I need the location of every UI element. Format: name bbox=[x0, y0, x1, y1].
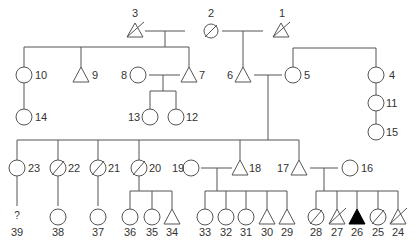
individual-9: 9 bbox=[73, 67, 98, 82]
label-9: 9 bbox=[92, 69, 98, 81]
label-30: 30 bbox=[261, 226, 273, 238]
individual-15: 15 bbox=[368, 124, 398, 140]
individual-10: 10 bbox=[16, 67, 47, 83]
label-16: 16 bbox=[361, 162, 373, 174]
male-triangle-icon bbox=[73, 67, 89, 82]
label-39: 39 bbox=[11, 226, 23, 238]
female-circle-icon bbox=[197, 209, 213, 225]
individual-26: 26 bbox=[349, 209, 365, 238]
female-circle-icon bbox=[368, 67, 384, 83]
individual-3: 3 bbox=[127, 7, 144, 37]
female-circle-icon bbox=[144, 209, 160, 225]
label-13: 13 bbox=[128, 111, 140, 123]
label-34: 34 bbox=[166, 226, 178, 238]
female-circle-icon bbox=[368, 124, 384, 140]
individual-22: 22 bbox=[50, 160, 80, 176]
label-29: 29 bbox=[281, 226, 293, 238]
female-circle-icon bbox=[122, 209, 138, 225]
individual-17: 17 bbox=[277, 160, 307, 175]
individual-4: 4 bbox=[368, 67, 395, 83]
female-circle-icon bbox=[285, 67, 301, 83]
female-circle-icon bbox=[130, 67, 146, 83]
unknown-sex-mark: ? bbox=[14, 210, 20, 221]
individual-38: 38 bbox=[50, 209, 66, 238]
label-19: 19 bbox=[172, 162, 184, 174]
female-circle-icon bbox=[218, 209, 234, 225]
female-circle-icon bbox=[168, 109, 184, 125]
individual-12: 12 bbox=[168, 109, 198, 125]
label-1: 1 bbox=[279, 7, 285, 19]
individual-33: 33 bbox=[197, 209, 213, 238]
label-20: 20 bbox=[149, 162, 161, 174]
individual-8: 8 bbox=[121, 67, 146, 83]
label-32: 32 bbox=[220, 226, 232, 238]
label-23: 23 bbox=[28, 162, 40, 174]
individual-18: 18 bbox=[232, 160, 261, 175]
individual-14: 14 bbox=[16, 109, 47, 125]
label-11: 11 bbox=[386, 97, 397, 109]
female-circle-icon bbox=[16, 109, 32, 125]
female-circle-icon bbox=[90, 209, 106, 225]
label-33: 33 bbox=[199, 226, 211, 238]
individual-28: 28 bbox=[308, 209, 324, 238]
individual-19: 19 bbox=[172, 160, 199, 176]
label-4: 4 bbox=[389, 69, 395, 81]
female-circle-icon bbox=[238, 209, 254, 225]
label-37: 37 bbox=[92, 226, 104, 238]
label-3: 3 bbox=[132, 7, 138, 19]
individual-13: 13 bbox=[128, 109, 158, 125]
female-circle-icon bbox=[142, 109, 158, 125]
label-28: 28 bbox=[310, 226, 322, 238]
individual-32: 32 bbox=[218, 209, 234, 238]
male-triangle-icon bbox=[164, 209, 180, 224]
individual-20: 20 bbox=[131, 160, 161, 176]
individual-5: 5 bbox=[285, 67, 310, 83]
individual-30: 30 bbox=[259, 209, 275, 238]
individual-35: 35 bbox=[144, 209, 160, 238]
label-17: 17 bbox=[277, 162, 289, 174]
individual-2: 2 bbox=[204, 7, 218, 38]
label-26: 26 bbox=[351, 226, 363, 238]
individual-34: 34 bbox=[164, 209, 180, 238]
individual-27: 27 bbox=[329, 208, 346, 238]
label-35: 35 bbox=[146, 226, 158, 238]
individual-25: 25 bbox=[370, 209, 386, 238]
female-circle-icon bbox=[9, 160, 25, 176]
male-triangle-icon bbox=[259, 209, 275, 224]
male-triangle-icon bbox=[232, 160, 248, 175]
individual-21: 21 bbox=[90, 160, 120, 176]
affected-male-triangle-icon bbox=[349, 209, 365, 224]
label-2: 2 bbox=[208, 7, 214, 19]
individual-11: 11 bbox=[368, 95, 397, 111]
label-10: 10 bbox=[35, 69, 47, 81]
label-21: 21 bbox=[108, 162, 120, 174]
individual-16: 16 bbox=[342, 160, 373, 176]
female-circle-icon bbox=[183, 160, 199, 176]
label-27: 27 bbox=[331, 226, 343, 238]
label-38: 38 bbox=[52, 226, 64, 238]
label-36: 36 bbox=[124, 226, 136, 238]
individual-6: 6 bbox=[227, 67, 251, 82]
female-circle-icon bbox=[16, 67, 32, 83]
individual-23: 23 bbox=[9, 160, 40, 176]
individual-36: 36 bbox=[122, 209, 138, 238]
label-22: 22 bbox=[68, 162, 80, 174]
male-triangle-icon bbox=[291, 160, 307, 175]
label-24: 24 bbox=[392, 226, 404, 238]
label-8: 8 bbox=[121, 69, 127, 81]
individual-7: 7 bbox=[181, 67, 205, 82]
female-circle-icon bbox=[342, 160, 358, 176]
label-31: 31 bbox=[240, 226, 252, 238]
male-triangle-icon bbox=[235, 67, 251, 82]
connector-lines bbox=[17, 31, 398, 209]
label-6: 6 bbox=[227, 69, 233, 81]
individual-31: 31 bbox=[238, 209, 254, 238]
label-25: 25 bbox=[372, 226, 384, 238]
individual-24: 24 bbox=[390, 208, 407, 238]
pedigree-diagram: 3 2 1 10 9 8 7 6 5 4 14 bbox=[0, 0, 417, 249]
label-5: 5 bbox=[304, 69, 310, 81]
male-triangle-icon bbox=[279, 209, 295, 224]
individual-37: 37 bbox=[90, 209, 106, 238]
male-triangle-icon bbox=[181, 67, 197, 82]
label-12: 12 bbox=[186, 111, 198, 123]
